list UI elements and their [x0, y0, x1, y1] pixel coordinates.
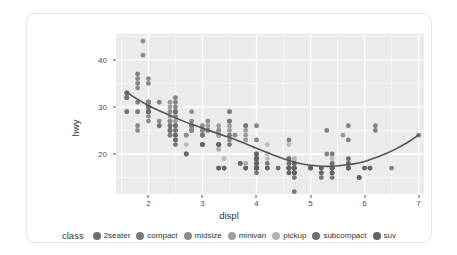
y-axis-title: hwy [70, 120, 81, 137]
y-tick-label: 30 [79, 102, 107, 111]
legend-item-label: midsize [195, 231, 222, 240]
x-tick-label: 3 [200, 199, 204, 208]
plot-card: hwy 203040 234567 displ class 2seatercom… [26, 13, 432, 243]
x-tick-label: 2 [146, 199, 150, 208]
screenshot-root: hwy 203040 234567 displ class 2seatercom… [0, 0, 457, 255]
scatter-plot-svg [116, 34, 424, 194]
legend-item-label: subcompact [323, 231, 366, 240]
legend-key-icon [312, 232, 320, 240]
x-tick-mark [256, 195, 257, 198]
legend-item-compact[interactable]: compact [136, 231, 177, 240]
series-minivan [168, 133, 259, 171]
legend-item-subcompact[interactable]: subcompact [312, 231, 366, 240]
x-tick-mark [418, 195, 419, 198]
legend-key-icon [228, 232, 236, 240]
legend-key-icon [373, 232, 381, 240]
legend-item-label: 2seater [104, 231, 131, 240]
legend-item-label: compact [147, 231, 177, 240]
x-tick-mark [202, 195, 203, 198]
legend-item-suv[interactable]: suv [373, 231, 396, 240]
gridlines-major [116, 34, 424, 194]
legend-item-2seater[interactable]: 2seater [93, 231, 131, 240]
legend: class 2seatercompactmidsizeminivanpickup… [27, 230, 431, 241]
x-tick-label: 4 [254, 199, 258, 208]
legend-item-midsize[interactable]: midsize [184, 231, 222, 240]
legend-key-icon [93, 232, 101, 240]
legend-key-icon [272, 232, 280, 240]
gridlines-minor [116, 34, 424, 194]
legend-item-label: suv [384, 231, 396, 240]
y-tick-label: 40 [79, 55, 107, 64]
legend-key-icon [184, 232, 192, 240]
x-tick-mark [310, 195, 311, 198]
x-tick-mark [364, 195, 365, 198]
legend-item-pickup[interactable]: pickup [272, 231, 306, 240]
legend-item-label: minivan [239, 231, 267, 240]
x-axis-title: displ [27, 210, 431, 221]
x-tick-label: 7 [416, 199, 420, 208]
legend-title: class [62, 230, 84, 241]
series-subcompact [124, 72, 394, 171]
series-2seater [346, 123, 421, 142]
x-tick-label: 6 [362, 199, 366, 208]
x-tick-label: 5 [308, 199, 312, 208]
plot-panel [116, 34, 424, 194]
legend-key-icon [136, 232, 144, 240]
x-tick-mark [148, 195, 149, 198]
legend-item-label: pickup [283, 231, 306, 240]
legend-item-minivan[interactable]: minivan [228, 231, 267, 240]
data-points-layer [124, 39, 421, 194]
y-tick-label: 20 [79, 150, 107, 159]
